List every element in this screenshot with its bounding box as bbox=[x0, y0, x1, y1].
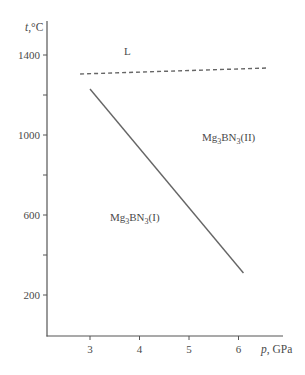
y-tick-label: 600 bbox=[24, 209, 41, 221]
region-label-mg3bn3-ii: Mg3BN3(II) bbox=[202, 131, 256, 146]
x-axis-label: p, GPa bbox=[260, 343, 292, 356]
y-tick-label: 200 bbox=[24, 289, 41, 301]
y-tick-label: 1400 bbox=[18, 49, 41, 61]
solid-boundary-line bbox=[90, 89, 243, 273]
x-tick-label: 5 bbox=[186, 343, 192, 355]
series-layer bbox=[80, 68, 268, 273]
y-axis-label: t,°C bbox=[25, 21, 44, 34]
x-ticks: 3456 bbox=[87, 336, 242, 355]
region-label-liquid: L bbox=[124, 45, 131, 57]
x-tick-label: 3 bbox=[87, 343, 93, 355]
x-tick-label: 4 bbox=[137, 343, 143, 355]
y-tick-label: 1000 bbox=[18, 129, 41, 141]
y-ticks: 20060010001400 bbox=[18, 49, 47, 301]
x-tick-label: 6 bbox=[236, 343, 242, 355]
dashed-boundary-line bbox=[80, 68, 268, 74]
region-label-mg3bn3-i: Mg3BN3(I) bbox=[110, 211, 160, 226]
phase-diagram: 20060010001400 3456 t,°C p, GPa L Mg3BN3… bbox=[0, 0, 305, 375]
